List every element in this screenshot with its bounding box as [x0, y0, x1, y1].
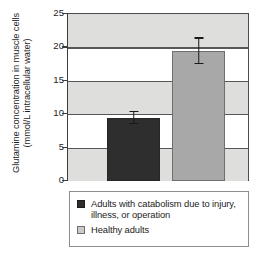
y-axis-title-line2: (mmol/L intracellular water) — [22, 13, 33, 173]
y-tick-label-0: 0 — [44, 175, 64, 185]
errorbar-cap-bottom — [129, 123, 138, 125]
chart-figure: Glutamine concentration in muscle cells … — [0, 0, 260, 262]
legend-swatch-dark-icon — [77, 200, 85, 208]
y-tick-label-10: 10 — [44, 108, 64, 118]
y-axis-title-line1: Glutamine concentration in muscle cells — [11, 13, 22, 173]
plot-area — [68, 13, 249, 180]
errorbar-cap-top — [129, 111, 138, 113]
errorbar-catabolism — [107, 111, 160, 124]
errorbar-cap-bottom — [194, 63, 203, 65]
errorbar-cap-top — [194, 37, 203, 39]
y-axis-tick-labels: 25 20 15 10 5 0 — [42, 0, 64, 262]
legend-swatch-light-icon — [77, 226, 85, 234]
legend-label-catabolism-line1: Adults with catabolism due to — [91, 198, 210, 209]
y-tick-label-15: 15 — [44, 75, 64, 85]
legend-label-healthy: Healthy adults — [91, 224, 149, 235]
legend-item-healthy: Healthy adults — [77, 224, 243, 235]
errorbar-healthy — [172, 37, 225, 64]
chart-legend: Adults with catabolism due to injury, il… — [69, 191, 249, 247]
errorbar-stem — [198, 37, 200, 64]
y-axis-title: Glutamine concentration in muscle cells … — [0, 0, 44, 186]
bar-healthy — [172, 51, 225, 181]
legend-item-catabolism: Adults with catabolism due to injury, il… — [77, 198, 243, 220]
legend-label-catabolism: Adults with catabolism due to injury, il… — [91, 198, 243, 220]
y-tick-label-25: 25 — [44, 8, 64, 18]
y-tick-label-20: 20 — [44, 41, 64, 51]
bar-catabolism — [107, 118, 160, 182]
y-tick-label-5: 5 — [44, 142, 64, 152]
